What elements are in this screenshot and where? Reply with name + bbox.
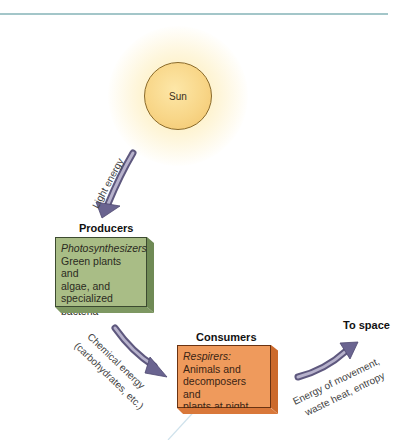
producers-box-front: Photosynthesizers: Green plants and alga… [55,237,147,307]
consumers-role: Respirers: [183,350,265,363]
producers-box-side [147,237,154,313]
producers-role: Photosynthesizers: [61,242,141,255]
producers-heading: Producers [79,222,133,234]
producers-line-2: algae, and [61,280,141,293]
consumers-box-side [271,345,278,414]
consumers-line-2: decomposers and [183,375,265,400]
consumers-line-1: Animals and [183,363,265,376]
consumers-heading: Consumers [196,331,257,343]
producers-line-1: Green plants and [61,255,141,280]
consumers-box-bottom [177,408,278,414]
producers-box-bottom [55,307,154,313]
consumers-box-front: Respirers: Animals and decomposers and p… [177,345,271,408]
producers-line-3: specialized [61,292,141,305]
to-space-heading: To space [343,319,390,331]
